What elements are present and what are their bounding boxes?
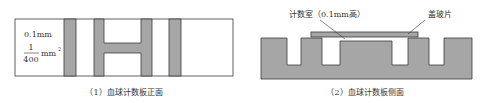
chamber-label: 计数室（0.1mm高） bbox=[289, 9, 365, 19]
area-denominator: 400 bbox=[23, 55, 38, 64]
side-caption: （2）血球计数板侧面 bbox=[326, 87, 403, 97]
slide-body-profile bbox=[261, 38, 472, 79]
area-exponent: 2 bbox=[58, 46, 61, 52]
front-caption: （1）血球计数板正面 bbox=[85, 87, 162, 97]
diagram-canvas: 0.1mm 1 400 mm 2 （1）血球计数板正面 计数室（0.1mm高） … bbox=[0, 0, 484, 103]
groove-bar-1 bbox=[64, 19, 76, 76]
area-unit: mm bbox=[41, 49, 57, 58]
groove-bar-4 bbox=[169, 19, 181, 76]
counting-chamber-side-view: 计数室（0.1mm高） 盖玻片 （2）血球计数板侧面 bbox=[261, 9, 472, 97]
area-numerator: 1 bbox=[28, 43, 33, 52]
counting-chamber-front-view: 0.1mm 1 400 mm 2 （1）血球计数板正面 bbox=[15, 19, 233, 97]
coverslip bbox=[311, 32, 418, 37]
depth-label: 0.1mm bbox=[24, 30, 52, 39]
coverslip-label: 盖玻片 bbox=[428, 9, 452, 19]
